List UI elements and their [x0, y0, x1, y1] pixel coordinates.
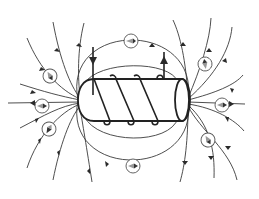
compass-top [124, 34, 138, 48]
compass-right-middle [215, 98, 229, 112]
compass-bottom [126, 159, 140, 173]
output-current-arrow-icon [160, 56, 168, 64]
input-current-arrow-icon [89, 57, 97, 65]
solenoid-field-diagram [0, 0, 259, 199]
solenoid [78, 75, 190, 125]
compass-left-middle [35, 99, 49, 113]
solenoid-core [78, 79, 190, 121]
compass-right-lower [198, 130, 217, 149]
solenoid-end-cap [175, 79, 189, 121]
compass-left-lower [39, 119, 58, 138]
